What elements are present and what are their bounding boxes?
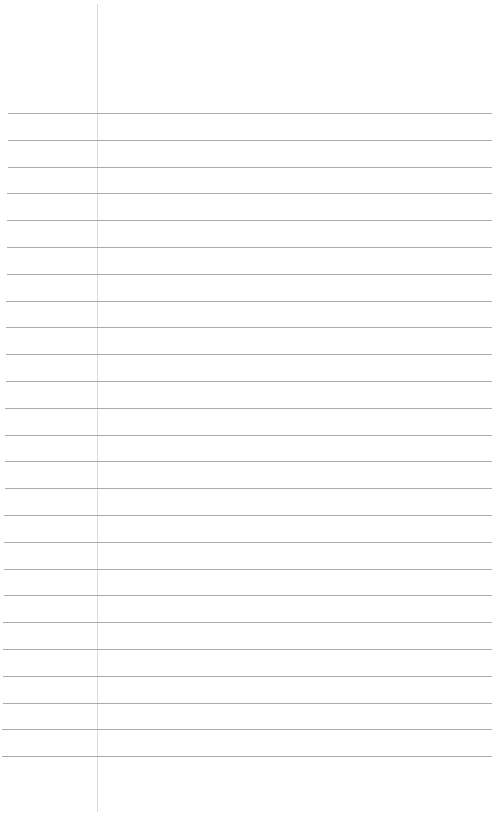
ruled-line (4, 515, 492, 516)
ruled-line (6, 354, 492, 355)
ruled-line (6, 301, 492, 302)
ruled-line (5, 408, 492, 409)
ruled-line (3, 703, 493, 704)
ruled-line (4, 595, 493, 596)
ruled-line (8, 113, 492, 114)
ruled-line (7, 247, 492, 248)
ruled-line (5, 461, 492, 462)
ruled-line (7, 220, 492, 221)
ruled-line (6, 381, 493, 382)
ruled-line (4, 542, 492, 543)
ruled-line (7, 193, 492, 194)
ruled-line (2, 729, 492, 730)
ruled-line (4, 569, 492, 570)
ruled-line (8, 140, 492, 141)
ruled-line (2, 756, 492, 757)
ruled-line (8, 167, 493, 168)
ruled-line (3, 649, 492, 650)
lined-paper-sheet (0, 0, 495, 815)
ruled-line (3, 622, 492, 623)
ruled-line (3, 676, 492, 677)
ruled-line (5, 435, 492, 436)
ruled-line (6, 327, 492, 328)
ruled-line (5, 488, 493, 489)
ruled-line (7, 274, 493, 275)
